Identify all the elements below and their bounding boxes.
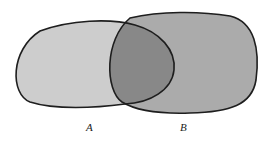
set-a-label: A <box>85 121 93 133</box>
set-b-label: B <box>180 121 187 133</box>
venn-diagram: A B <box>0 0 275 141</box>
